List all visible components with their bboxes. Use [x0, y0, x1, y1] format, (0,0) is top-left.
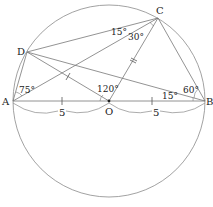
brace-ob-2 — [160, 103, 205, 113]
angle-label-b-60: 60° — [183, 85, 199, 95]
brace-ob — [109, 103, 152, 113]
center-point-o — [108, 100, 111, 103]
angle-label-c-15: 15° — [111, 27, 127, 37]
length-label-ao: 5 — [59, 107, 65, 118]
length-label-ob: 5 — [153, 107, 159, 118]
angle-label-b-15: 15° — [162, 91, 178, 101]
brace-ao-2 — [66, 103, 109, 113]
tick-do — [66, 73, 70, 80]
label-a: A — [1, 96, 10, 107]
arc-angle-c — [150, 22, 154, 26]
angle-label-c-30: 30° — [128, 32, 144, 42]
geometry-diagram: A B C D O 75° 120° 15° 30° 60° 15° 5 5 — [0, 0, 213, 207]
label-b: B — [206, 96, 213, 107]
brace-ao — [13, 103, 58, 113]
angle-label-o: 120° — [97, 84, 119, 94]
label-d: D — [17, 46, 25, 57]
label-c: C — [156, 5, 164, 16]
angle-label-a: 75° — [19, 85, 35, 95]
label-o: O — [105, 106, 113, 117]
